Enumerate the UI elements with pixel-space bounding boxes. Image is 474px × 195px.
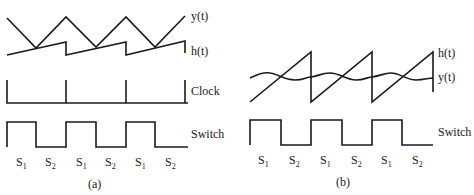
clock-waveform-a: [7, 80, 188, 103]
phase-labels-a: S1 S2 S1 S2 S1 S2: [16, 155, 176, 171]
svg-text:S1: S1: [16, 155, 27, 171]
switch-label-b: Switch: [438, 125, 471, 139]
switch-label-a: Switch: [191, 127, 224, 141]
y-label-a: y(t): [191, 9, 208, 23]
h-label-a: h(t): [191, 44, 208, 58]
svg-text:S2: S2: [45, 155, 56, 171]
caption-a: (a): [88, 177, 101, 191]
y-waveform-a: [7, 16, 185, 48]
svg-text:S1: S1: [258, 153, 269, 169]
svg-text:S2: S2: [105, 155, 116, 171]
timing-diagram: y(t) h(t) Clock Switch S1 S2 S1 S2 S1 S2…: [0, 0, 474, 195]
y-label-b: y(t): [438, 70, 455, 84]
h-label-b: h(t): [438, 46, 455, 60]
panel-b: h(t) y(t) Switch S1 S2 S1 S2 S1 S2 (b): [250, 46, 471, 189]
switch-waveform-b: [250, 120, 433, 145]
caption-b: (b): [336, 175, 350, 189]
svg-text:S2: S2: [412, 153, 423, 169]
clock-label-a: Clock: [191, 84, 220, 98]
svg-text:S1: S1: [76, 155, 87, 171]
panel-a: y(t) h(t) Clock Switch S1 S2 S1 S2 S1 S2…: [7, 9, 224, 191]
svg-text:S2: S2: [289, 153, 300, 169]
svg-text:S1: S1: [135, 155, 146, 171]
svg-text:S2: S2: [165, 155, 176, 171]
switch-waveform-a: [7, 122, 188, 147]
phase-labels-b: S1 S2 S1 S2 S1 S2: [258, 153, 423, 169]
svg-text:S1: S1: [381, 153, 392, 169]
svg-text:S2: S2: [351, 153, 362, 169]
svg-text:S1: S1: [320, 153, 331, 169]
